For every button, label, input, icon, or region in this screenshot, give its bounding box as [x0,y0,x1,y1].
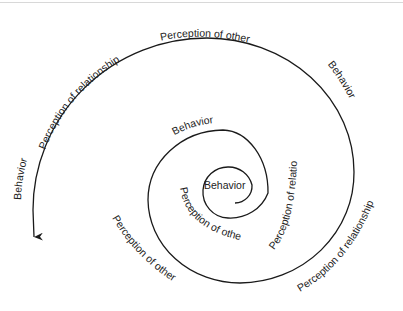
outer-perception-of-relationship-label: Perception of relationship [36,53,122,151]
outer-behavior-right-label: Behavior [326,58,359,100]
outer-perception-of-other-label: Perception of other [159,27,252,45]
center-behavior-label: Behavior [204,179,246,191]
outer-behavior-left-label: Behavior [11,156,29,200]
middle-perception-of-relationship-label: Perception of relationship [295,198,376,294]
spiral-diagram: Behavior Perception of other Perception … [0,0,403,311]
inner-behavior-label: Behavior [170,113,215,137]
spiral-path [33,38,354,283]
middle-perception-of-other-label: Perception of other [110,213,179,284]
